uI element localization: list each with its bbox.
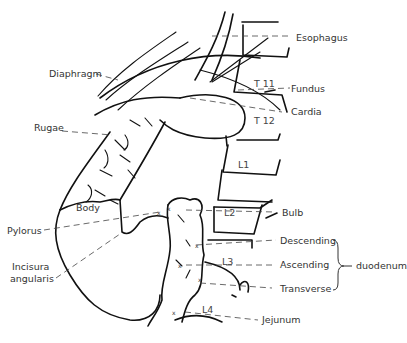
stomach-line-drawing: x x x x x x — [0, 0, 407, 343]
vertebra-t11: T 11 — [254, 79, 275, 89]
label-jejunum: Jejunum — [262, 315, 301, 325]
label-fundus: Fundus — [291, 84, 325, 94]
label-transverse: Transverse — [280, 284, 331, 294]
svg-text:x: x — [198, 276, 202, 283]
greater-curvature — [56, 210, 160, 320]
label-descending: Descending — [280, 236, 336, 246]
leader-rugae — [62, 131, 112, 135]
duodenum-loop-right — [168, 198, 204, 322]
svg-text:x: x — [195, 242, 199, 249]
duodenum-brace — [333, 240, 344, 290]
label-rugae: Rugae — [34, 123, 64, 133]
vertebra-t12: T 12 — [254, 116, 275, 126]
duodenum-loop-left — [148, 205, 170, 326]
svg-text:x: x — [157, 209, 161, 216]
svg-text:x: x — [167, 205, 171, 212]
label-angularis: angularis — [10, 274, 54, 284]
label-cardia: Cardia — [291, 107, 322, 117]
leader-transverse — [200, 283, 272, 288]
vertebra-l1: L1 — [238, 160, 249, 170]
greater-curve-top — [95, 97, 180, 115]
label-diaphragm: Diaphragm — [49, 69, 102, 79]
diaphragm-line-a — [98, 32, 176, 96]
esophagus-wall-right — [212, 14, 233, 80]
vertebra-l3: L3 — [222, 257, 233, 267]
vertebra-l2: L2 — [224, 208, 235, 218]
anatomy-diagram: x x x x x x Diaphragm Rugae Body Pylorus… — [0, 0, 407, 343]
label-bulb: Bulb — [282, 208, 303, 218]
fundus-outline — [160, 95, 245, 138]
label-incisura: Incisura — [12, 262, 49, 272]
rugae-band-inner — [120, 122, 165, 200]
svg-text:x: x — [178, 262, 182, 269]
label-ascending: Ascending — [280, 260, 329, 270]
leader-incisura — [56, 234, 120, 278]
label-duodenum: duodenum — [356, 261, 407, 271]
label-esophagus: Esophagus — [296, 33, 348, 43]
svg-text:x: x — [172, 309, 176, 316]
label-body: Body — [76, 203, 100, 213]
label-pylorus: Pylorus — [7, 226, 42, 236]
vertebra-l4: L4 — [202, 305, 213, 315]
